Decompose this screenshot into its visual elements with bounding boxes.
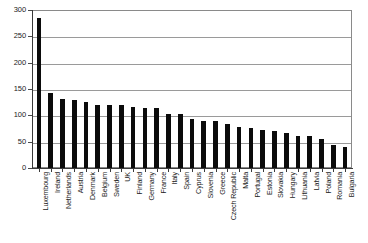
bar-slot [151, 11, 163, 168]
bar-slot [163, 11, 175, 168]
bar[interactable] [131, 107, 136, 168]
x-tick-label: Greece [219, 172, 226, 195]
bar[interactable] [307, 136, 312, 168]
x-tick-label: Latvia [313, 172, 320, 190]
bar-slot [57, 11, 69, 168]
x-tick-mark [216, 168, 217, 172]
x-tick-mark [263, 168, 264, 172]
bar[interactable] [284, 133, 289, 168]
x-tick-label: Netherlands [65, 172, 72, 209]
x-tick-label: Cyprus [195, 172, 202, 194]
x-tick-label: Hungary [289, 172, 296, 198]
bars-group [33, 11, 351, 168]
x-tick-mark [298, 168, 299, 172]
y-tick-mark [28, 89, 32, 90]
bar[interactable] [154, 108, 159, 168]
bar[interactable] [249, 128, 254, 168]
bar[interactable] [95, 105, 100, 168]
x-tick-label: Italy [171, 172, 178, 184]
bar[interactable] [84, 102, 89, 168]
bar-slot [115, 11, 127, 168]
y-tick-label: 100 [0, 111, 26, 119]
bar[interactable] [213, 121, 218, 168]
x-tick-mark [192, 168, 193, 172]
x-tick-label: Poland [325, 172, 332, 193]
bar[interactable] [72, 100, 77, 168]
bar-slot [45, 11, 57, 168]
bar-slot [316, 11, 328, 168]
x-tick-label: France [160, 172, 167, 193]
bar[interactable] [107, 105, 112, 168]
y-tick-mark [28, 36, 32, 37]
y-tick-mark [28, 142, 32, 143]
x-tick-mark [322, 168, 323, 172]
bar-slot [174, 11, 186, 168]
y-tick-label: 150 [0, 85, 26, 93]
x-tick-mark [98, 168, 99, 172]
bar-slot [210, 11, 222, 168]
bar-slot [257, 11, 269, 168]
bar[interactable] [48, 93, 53, 168]
bar[interactable] [225, 124, 230, 168]
bar-slot [104, 11, 116, 168]
x-tick-mark [110, 168, 111, 172]
bar[interactable] [343, 147, 348, 168]
bar-slot [280, 11, 292, 168]
x-tick-label: Estonia [266, 172, 273, 195]
x-tick-mark [145, 168, 146, 172]
bar-slot [186, 11, 198, 168]
x-tick-mark [310, 168, 311, 172]
x-tick-label: Sweden [113, 172, 120, 197]
x-tick-label: Lithuania [301, 172, 308, 200]
x-tick-mark [251, 168, 252, 172]
bar[interactable] [331, 145, 336, 168]
bar[interactable] [296, 136, 301, 168]
x-tick-label: Slovenia [207, 172, 214, 198]
bar[interactable] [60, 99, 65, 168]
x-tick-label: Austria [77, 172, 84, 193]
bar-slot [221, 11, 233, 168]
bar[interactable] [190, 119, 195, 168]
y-tick-mark [28, 168, 32, 169]
x-tick-mark [157, 168, 158, 172]
bar[interactable] [237, 127, 242, 168]
x-tick-label: Bulgaria [348, 172, 355, 197]
bar-slot [68, 11, 80, 168]
bar[interactable] [119, 105, 124, 168]
bar[interactable] [37, 18, 42, 168]
x-tick-label: Portugal [254, 172, 261, 198]
bar-slot [269, 11, 281, 168]
bar[interactable] [319, 139, 324, 168]
y-tick-mark [28, 63, 32, 64]
bar-slot [92, 11, 104, 168]
x-tick-label: Belgium [101, 172, 108, 197]
x-tick-mark [204, 168, 205, 172]
bar-slot [127, 11, 139, 168]
bar[interactable] [201, 121, 206, 168]
x-tick-mark [39, 168, 40, 172]
x-tick-mark [239, 168, 240, 172]
x-tick-label: Czech Republic [230, 172, 237, 220]
bar[interactable] [272, 131, 277, 168]
bar-slot [327, 11, 339, 168]
y-tick-mark [28, 10, 32, 11]
bar-slot [245, 11, 257, 168]
bar-slot [292, 11, 304, 168]
y-tick-label: 0 [0, 164, 26, 172]
bar-slot [233, 11, 245, 168]
x-tick-label: UK [124, 172, 131, 182]
x-tick-label: Denmark [89, 172, 96, 200]
bar-chart: 050100150200250300 LuxembourgIrelandNeth… [0, 0, 368, 243]
x-tick-mark [345, 168, 346, 172]
bar[interactable] [260, 130, 265, 168]
x-tick-mark [133, 168, 134, 172]
bar[interactable] [143, 108, 148, 168]
x-tick-label: Finland [136, 172, 143, 195]
bar[interactable] [178, 114, 183, 168]
bar-slot [139, 11, 151, 168]
y-tick-label: 300 [0, 6, 26, 14]
bar-slot [339, 11, 351, 168]
x-tick-label: Malta [242, 172, 249, 189]
bar[interactable] [166, 114, 171, 168]
x-tick-mark [51, 168, 52, 172]
